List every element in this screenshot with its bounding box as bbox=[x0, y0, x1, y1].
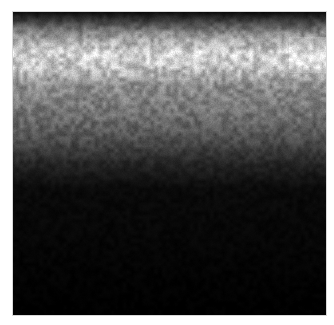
grayscale-texture-image bbox=[13, 12, 326, 315]
texture-canvas bbox=[13, 12, 326, 315]
